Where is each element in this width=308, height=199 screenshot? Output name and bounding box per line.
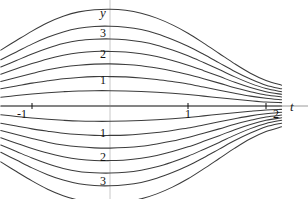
t-axis-tick-label: -1 xyxy=(12,108,32,120)
solution-curve xyxy=(1,118,282,161)
y-axis-tick-label: 3 xyxy=(94,27,106,39)
solution-curve xyxy=(1,91,282,103)
plot-canvas xyxy=(0,0,308,199)
solution-curves-figure: y t 321123 -112 xyxy=(0,0,308,199)
curve-group xyxy=(1,9,282,199)
t-axis-tick-label: 2 xyxy=(266,108,286,120)
y-axis-label: y xyxy=(100,6,106,19)
y-axis-tick-label: 3 xyxy=(94,175,106,187)
y-axis-tick-label: 2 xyxy=(94,151,106,163)
y-axis-tick-label: 1 xyxy=(94,74,106,86)
t-axis-label: t xyxy=(290,100,294,113)
y-axis-tick-label: 1 xyxy=(94,127,106,139)
solution-curve xyxy=(1,112,282,135)
axis-group xyxy=(1,0,308,199)
y-axis-tick-label: 2 xyxy=(94,48,106,60)
t-axis-tick-label: 1 xyxy=(178,108,198,120)
solution-curve xyxy=(1,51,282,94)
solution-curve xyxy=(1,109,282,121)
solution-curve xyxy=(1,77,282,100)
